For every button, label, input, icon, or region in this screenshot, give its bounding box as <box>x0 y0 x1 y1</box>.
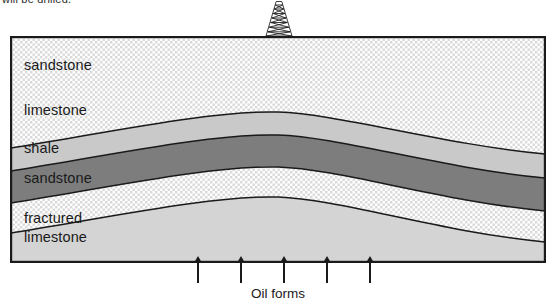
layer-label-sandstone-upper: sandstone <box>24 57 92 73</box>
layer-label-fractured-limestone-line2: limestone <box>24 228 87 247</box>
layer-label-shale: shale <box>24 140 59 156</box>
oil-migration-arrow <box>194 256 202 283</box>
oil-migration-arrow <box>237 256 245 283</box>
drilling-derrick-icon <box>262 0 296 37</box>
layer-label-sandstone-lower: sandstone <box>24 170 92 186</box>
oil-forms-caption: Oil forms <box>0 286 556 301</box>
top-caption-fragment: will be drilled. <box>2 0 71 5</box>
oil-migration-arrow <box>280 256 288 283</box>
oil-migration-arrow <box>323 256 331 283</box>
layer-label-limestone: limestone <box>24 102 87 118</box>
layer-label-fractured-limestone-line1: fractured <box>24 209 87 228</box>
layer-label-fractured-limestone: fractured limestone <box>24 209 87 247</box>
oil-migration-arrow <box>366 256 374 283</box>
oil-migration-arrows <box>190 256 390 283</box>
